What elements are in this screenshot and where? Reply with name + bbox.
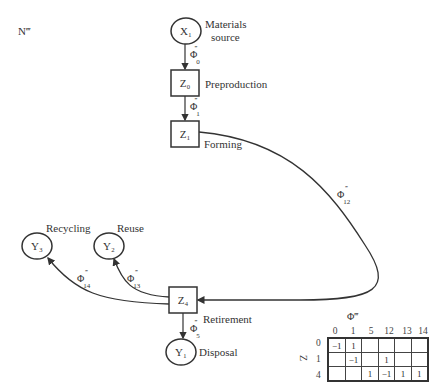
matrix-col-0: 0 xyxy=(326,326,344,336)
label-recycling: Recycling xyxy=(46,222,91,234)
label-retirement: Retirement xyxy=(203,313,252,325)
corner-label: N‴ xyxy=(18,25,31,37)
phi-14: Φ14‴ xyxy=(77,271,88,288)
node-z4-text: Z₄ xyxy=(169,294,197,306)
table-cell: 1 xyxy=(395,367,411,382)
matrix-row-1: 1 xyxy=(316,354,321,364)
table-cell: 1 xyxy=(362,367,378,382)
matrix-row-axis: Z xyxy=(297,355,309,361)
matrix-row-4: 4 xyxy=(316,370,321,380)
phi-1: Φ1‴ xyxy=(190,99,197,116)
node-z1-text: Z₁ xyxy=(171,128,199,140)
matrix-col-1: 1 xyxy=(344,326,362,336)
edge-z1-z4 xyxy=(198,132,378,300)
table-cell xyxy=(362,353,378,367)
matrix-title: Φ‴ xyxy=(347,311,358,323)
label-forming: Forming xyxy=(204,138,242,150)
phi-12: Φ12‴ xyxy=(337,187,348,204)
table-cell: −1 xyxy=(345,353,362,367)
table-cell: 1 xyxy=(345,338,362,353)
label-preproduction: Preproduction xyxy=(205,78,267,90)
table-cell: 1 xyxy=(378,353,395,367)
table-row: −1 1 xyxy=(328,338,428,353)
table-cell xyxy=(378,338,395,353)
phi-5: Φ5‴ xyxy=(190,321,197,338)
table-cell xyxy=(395,353,411,367)
matrix-col-12: 12 xyxy=(380,326,398,336)
phi-matrix-table: −1 1 −1 1 1 −1 1 1 xyxy=(327,337,429,382)
phi-0: Φ0‴ xyxy=(190,47,197,64)
table-cell: −1 xyxy=(378,367,395,382)
table-cell xyxy=(362,338,378,353)
table-cell xyxy=(395,338,411,353)
matrix-col-5: 5 xyxy=(362,326,380,336)
table-row: −1 1 xyxy=(328,353,428,367)
matrix-row-0: 0 xyxy=(316,338,321,348)
matrix-col-14: 14 xyxy=(414,326,429,336)
table-cell: −1 xyxy=(328,338,345,353)
edge-z4-y3 xyxy=(48,258,169,304)
node-y1-text: Y₁ xyxy=(166,346,196,358)
table-cell xyxy=(411,353,428,367)
table-cell xyxy=(411,338,428,353)
node-x1-text: X₁ xyxy=(171,25,201,37)
node-z0-text: Z₀ xyxy=(171,77,199,89)
table-cell xyxy=(328,353,345,367)
table-row: 1 −1 1 1 xyxy=(328,367,428,382)
table-cell xyxy=(345,367,362,382)
label-materials: Materials xyxy=(205,18,247,30)
edge-z4-y2 xyxy=(114,259,169,297)
table-cell xyxy=(328,367,345,382)
node-y3-text: Y₃ xyxy=(22,240,52,252)
label-source: source xyxy=(211,31,240,43)
label-reuse: Reuse xyxy=(117,222,144,234)
table-cell: 1 xyxy=(411,367,428,382)
phi-13: Φ13‴ xyxy=(127,271,138,288)
node-y2-text: Y₂ xyxy=(94,240,124,252)
label-disposal: Disposal xyxy=(199,346,238,358)
